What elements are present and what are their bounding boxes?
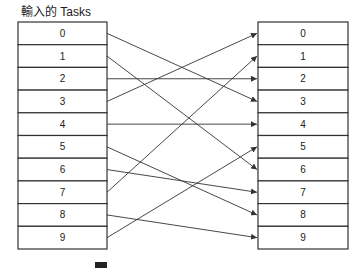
output-cell-label: 5: [300, 141, 306, 152]
input-cell-label: 2: [60, 73, 66, 84]
input-cell-label: 5: [60, 141, 66, 152]
arrow-6-to-7: [107, 170, 257, 193]
input-tasks-box: 0123456789: [18, 22, 107, 249]
arrow-9-to-5: [107, 147, 257, 238]
output-cell-label: 7: [300, 187, 306, 198]
mapping-arrows: [107, 33, 257, 237]
input-cell-label: 3: [60, 96, 66, 107]
input-cell-label: 7: [60, 187, 66, 198]
output-cell-label: 0: [300, 28, 306, 39]
output-cell-label: 1: [300, 51, 306, 62]
input-cell-label: 6: [60, 164, 66, 175]
figure-caption-fragment: [95, 262, 107, 268]
output-tasks-box: 0123456789: [258, 22, 348, 249]
input-cell-label: 9: [60, 232, 66, 243]
output-cell-label: 3: [300, 96, 306, 107]
output-cell-label: 8: [300, 209, 306, 220]
input-cell-label: 0: [60, 28, 66, 39]
output-cell-label: 4: [300, 119, 306, 130]
output-cell-label: 9: [300, 232, 306, 243]
input-cell-label: 4: [60, 119, 66, 130]
input-cell-label: 1: [60, 51, 66, 62]
arrow-8-to-9: [107, 215, 257, 238]
input-cell-label: 8: [60, 209, 66, 220]
output-cell-label: 2: [300, 73, 306, 84]
arrow-1-to-6: [107, 56, 257, 170]
output-cell-label: 6: [300, 164, 306, 175]
